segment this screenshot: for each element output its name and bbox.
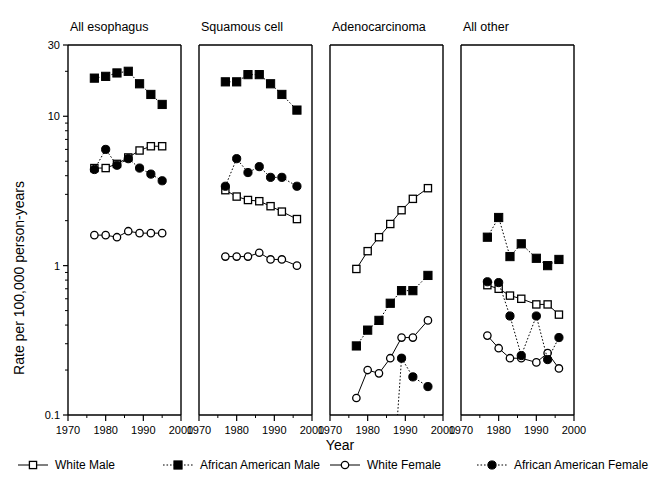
x-tick-label: 1990 (393, 424, 417, 436)
data-point (364, 366, 371, 373)
data-point (424, 185, 431, 192)
data-point (364, 326, 372, 334)
data-point (90, 74, 98, 82)
panel-data (483, 213, 563, 372)
legend-item-african-american-male[interactable]: African American Male (163, 458, 320, 472)
data-point (278, 90, 286, 98)
data-point (387, 355, 394, 362)
y-tick-0.1: 0.1 (45, 409, 68, 421)
data-point (517, 351, 525, 359)
legend-label: African American Male (200, 458, 320, 472)
data-point (158, 229, 165, 236)
data-point (255, 71, 263, 79)
data-point (147, 90, 155, 98)
data-point (113, 161, 121, 169)
data-point (256, 198, 263, 205)
data-point (124, 67, 132, 75)
x-tick-label: 1990 (131, 424, 155, 436)
data-point (409, 373, 417, 381)
x-tick-1970: 1970 (187, 415, 211, 436)
legend-item-white-female[interactable]: White Female (330, 458, 441, 472)
x-tick-1980: 1980 (224, 415, 248, 436)
data-point (136, 229, 143, 236)
legend-item-white-male[interactable]: White Male (18, 458, 115, 472)
data-point (293, 215, 300, 222)
data-point (532, 254, 540, 262)
data-point (555, 311, 562, 318)
data-point (398, 207, 405, 214)
data-point (233, 193, 240, 200)
y-tick-label: 1 (54, 260, 60, 272)
y-tick-label: 10 (48, 110, 60, 122)
legend-item-african-american-female[interactable]: African American Female (477, 458, 648, 472)
series-drop-line (398, 358, 402, 415)
panel-1: All esophagus1970198019902000 (56, 20, 193, 436)
legend-label: White Male (55, 458, 115, 472)
x-tick-1980: 1980 (355, 415, 379, 436)
figure-root: All esophagus1970198019902000Squamous ce… (0, 0, 667, 479)
data-point (147, 143, 154, 150)
data-point (267, 203, 274, 210)
x-tick-label: 1990 (262, 424, 286, 436)
series-african-american-male (90, 67, 166, 108)
data-point (495, 345, 502, 352)
x-tick-1980: 1980 (486, 415, 510, 436)
panel-data (221, 71, 301, 270)
data-point (293, 106, 301, 114)
series-white-male (353, 185, 432, 273)
y-axis: 301010.1 (45, 39, 68, 421)
data-point (244, 71, 252, 79)
x-tick-1970: 1970 (318, 415, 342, 436)
y-tick-label: 0.1 (45, 409, 60, 421)
data-point (495, 213, 503, 221)
data-point (102, 164, 109, 171)
series-line (402, 358, 428, 386)
data-point (533, 301, 540, 308)
data-point (278, 173, 286, 181)
data-point (136, 147, 143, 154)
data-point (518, 295, 525, 302)
data-point (158, 177, 166, 185)
data-point (517, 240, 525, 248)
data-point (409, 334, 416, 341)
data-point (555, 333, 563, 341)
legend-marker (488, 461, 496, 469)
legend-marker (174, 461, 182, 469)
data-point (278, 208, 285, 215)
data-point (544, 355, 552, 363)
data-point (483, 278, 491, 286)
panel-2: Squamous cell1970198019902000 (187, 20, 324, 436)
data-point (375, 370, 382, 377)
x-tick-1970: 1970 (449, 415, 473, 436)
data-point (555, 365, 562, 372)
y-tick-1: 1 (54, 260, 68, 272)
data-point (533, 359, 540, 366)
data-point (555, 255, 563, 263)
x-tick-1990: 1990 (262, 415, 286, 436)
data-point (293, 262, 300, 269)
data-point (113, 69, 121, 77)
data-point (266, 173, 274, 181)
data-point (158, 100, 166, 108)
data-point (424, 271, 432, 279)
x-tick-1990: 1990 (393, 415, 417, 436)
data-point (409, 195, 416, 202)
data-point (244, 168, 252, 176)
data-point (102, 145, 110, 153)
series-line (356, 275, 428, 346)
series-african-american-female (397, 354, 432, 391)
data-point (364, 248, 371, 255)
x-tick-1990: 1990 (524, 415, 548, 436)
data-point (90, 165, 98, 173)
data-point (113, 234, 120, 241)
series-white-female (222, 249, 301, 269)
data-point (506, 252, 514, 260)
data-point (147, 170, 155, 178)
data-point (484, 332, 491, 339)
x-tick-2000: 2000 (562, 415, 586, 436)
panel-data (352, 185, 432, 402)
data-point (244, 253, 251, 260)
panel-4: All other1970198019902000 (449, 20, 586, 436)
y-tick-10: 10 (48, 110, 68, 122)
data-point (424, 317, 431, 324)
